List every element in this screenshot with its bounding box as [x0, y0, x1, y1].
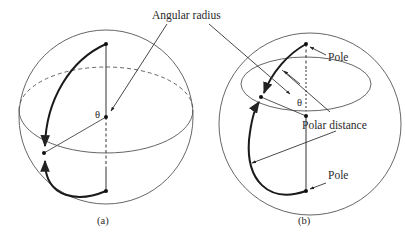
- sphere-a-radius: [44, 117, 106, 153]
- sphere-a-pole-bottom-dot: [104, 189, 108, 193]
- sphere-b-arc-lower: [249, 102, 306, 195]
- label-angular-radius: Angular radius: [152, 10, 221, 22]
- sphere-a-center-dot: [104, 115, 108, 119]
- sphere-a-great-arc-lower: [45, 161, 106, 197]
- label-pole-bottom: Pole: [328, 170, 348, 182]
- sphere-b-point-dot: [259, 95, 263, 99]
- leader-polar-distance: [252, 131, 336, 163]
- leader-pole-bottom: [310, 183, 326, 189]
- caption-b: (b): [298, 216, 310, 227]
- leader-angular-radius-b: [209, 24, 290, 94]
- sphere-a-pole-top-dot: [104, 42, 108, 46]
- caption-a: (a): [97, 216, 109, 227]
- sphere-b-pole-top-dot: [304, 42, 308, 46]
- label-polar-distance: Polar distance: [302, 120, 367, 132]
- sphere-b-center-dot: [304, 114, 308, 118]
- label-pole-top: Pole: [328, 52, 348, 64]
- angular-radius-measure-b: [282, 70, 330, 112]
- label-theta-a: θ: [95, 110, 100, 121]
- sphere-a: [19, 30, 193, 204]
- sphere-b-pole-bottom-dot: [304, 189, 308, 193]
- leader-pole-top: [310, 47, 326, 55]
- leader-angular-radius-a: [111, 24, 167, 111]
- angular-radius-arrow-b: [284, 71, 300, 84]
- sphere-a-great-arc-upper: [45, 44, 106, 146]
- label-theta-b: θ: [297, 98, 302, 109]
- sphere-a-point-dot: [42, 151, 46, 155]
